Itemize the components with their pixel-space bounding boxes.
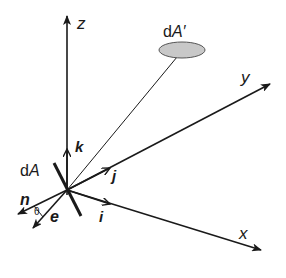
- unit-vector-i-label: i: [99, 208, 104, 225]
- x-axis-label: x: [238, 224, 248, 243]
- y-axis-label: y: [240, 68, 251, 87]
- dA-prime-label: dA′: [163, 23, 187, 40]
- unit-vector-k-label: k: [75, 138, 84, 155]
- unit-vector-j-label: j: [110, 167, 117, 184]
- radiation-geometry-diagram: z y x dA′ k j i dA n e θ: [0, 0, 286, 278]
- dA-label: dA: [20, 162, 40, 179]
- angle-theta-label: θ: [34, 206, 40, 217]
- normal-vector-n-label: n: [20, 191, 30, 208]
- z-axis-label: z: [76, 14, 86, 33]
- direction-vector-e-label: e: [50, 208, 59, 225]
- unit-vector-j: [67, 168, 110, 190]
- surface-element-dA-prime: [159, 42, 205, 58]
- line-of-sight: [67, 51, 182, 190]
